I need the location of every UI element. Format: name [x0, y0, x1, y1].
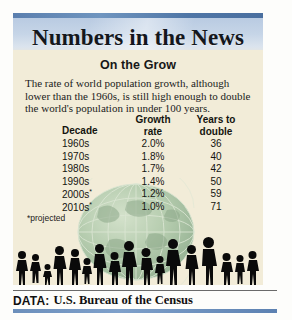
source-divider-top [13, 290, 277, 291]
cell-decade: 1980s [62, 163, 124, 174]
cell-growth-rate: 1.8% [130, 151, 176, 162]
column-header-years-to-double: Years todouble [193, 114, 239, 137]
footnote-projected: *projected [27, 213, 65, 223]
source-label: DATA: [13, 294, 50, 308]
table-header-row: Decade Growthrate Years todouble [13, 114, 263, 138]
article-subtitle: On the Grow [13, 58, 263, 72]
table-row: 1970s 1.8% 40 [13, 151, 263, 164]
source-text: U.S. Bureau of the Census [54, 293, 193, 308]
cell-years-to-double: 50 [193, 176, 239, 187]
people-silhouettes-icon [13, 227, 263, 285]
cell-years-to-double: 71 [193, 201, 239, 212]
article-panel: On the Grow The rate of world population… [13, 50, 263, 285]
table-row: 1990s 1.4% 50 [13, 176, 263, 189]
cell-decade: 2000s* [62, 188, 124, 200]
table-row: 1980s 1.7% 42 [13, 163, 263, 176]
statistics-table: Decade Growthrate Years todouble 1960s 2… [13, 114, 263, 214]
cell-growth-rate: 1.4% [130, 176, 176, 187]
table-row: 1960s 2.0% 36 [13, 138, 263, 151]
cell-years-to-double: 36 [193, 138, 239, 149]
source-attribution: DATA: U.S. Bureau of the Census [13, 293, 277, 308]
cell-growth-rate: 1.0% [130, 201, 176, 212]
cell-growth-rate: 1.7% [130, 163, 176, 174]
column-header-growth-rate: Growthrate [130, 114, 176, 137]
cell-decade: 1960s [62, 138, 124, 149]
source-divider-bottom [13, 309, 277, 313]
table-row: 2010s* 1.0% 71 [13, 201, 263, 214]
infographic-page: Numbers in the News On the Grow The rate… [0, 0, 292, 320]
table-row: 2000s* 1.2% 59 [13, 188, 263, 201]
cell-years-to-double: 42 [193, 163, 239, 174]
cell-growth-rate: 2.0% [130, 138, 176, 149]
cell-years-to-double: 40 [193, 151, 239, 162]
article-lede: The rate of world population growth, alt… [25, 77, 253, 115]
cell-decade: 1970s [62, 151, 124, 162]
column-header-decade: Decade [62, 125, 124, 137]
cell-growth-rate: 1.2% [130, 188, 176, 199]
cell-decade: 1990s [62, 176, 124, 187]
cell-years-to-double: 59 [193, 188, 239, 199]
cell-decade: 2010s* [62, 201, 124, 213]
